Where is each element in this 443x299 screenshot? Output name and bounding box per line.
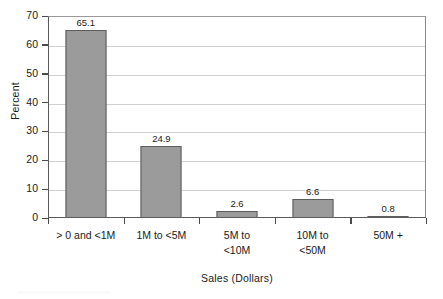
x-tick-mark bbox=[275, 218, 276, 224]
bar[interactable] bbox=[65, 30, 106, 218]
y-tick-label: 40 bbox=[0, 96, 38, 108]
y-tick-label: 0 bbox=[0, 211, 38, 223]
page-edge-artifact bbox=[18, 291, 110, 294]
x-category-label: > 0 and <1M bbox=[48, 228, 124, 243]
bar[interactable] bbox=[141, 146, 182, 218]
bar-chart: Percent 010203040506070 65.124.92.66.60.… bbox=[0, 0, 443, 299]
bar-series: 65.124.92.66.60.8 bbox=[48, 16, 426, 218]
bar-slot: 2.6 bbox=[199, 16, 275, 218]
bar-slot: 6.6 bbox=[275, 16, 351, 218]
bar[interactable] bbox=[216, 211, 257, 219]
x-category-label: 5M to <10M bbox=[199, 228, 275, 258]
x-category-label: 10M to <50M bbox=[275, 228, 351, 258]
x-tick-mark bbox=[199, 218, 200, 224]
bar-value-label: 2.6 bbox=[230, 198, 243, 209]
bar[interactable] bbox=[368, 216, 409, 218]
x-tick-mark bbox=[48, 218, 49, 224]
x-category-label: 50M + bbox=[350, 228, 426, 243]
bar-value-label: 24.9 bbox=[152, 133, 171, 144]
x-axis-title: Sales (Dollars) bbox=[48, 272, 426, 284]
bar[interactable] bbox=[292, 199, 333, 218]
bar-slot: 24.9 bbox=[124, 16, 200, 218]
x-tick-mark bbox=[426, 218, 427, 224]
y-tick-label: 10 bbox=[0, 182, 38, 194]
bar-value-label: 0.8 bbox=[382, 203, 395, 214]
y-tick-label: 30 bbox=[0, 124, 38, 136]
bar-slot: 65.1 bbox=[48, 16, 124, 218]
y-tick-label: 60 bbox=[0, 38, 38, 50]
bar-value-label: 6.6 bbox=[306, 186, 319, 197]
bar-value-label: 65.1 bbox=[77, 17, 96, 28]
y-tick-label: 50 bbox=[0, 67, 38, 79]
x-category-label: 1M to <5M bbox=[124, 228, 200, 243]
bar-slot: 0.8 bbox=[350, 16, 426, 218]
x-tick-mark bbox=[350, 218, 351, 224]
y-tick-label: 20 bbox=[0, 153, 38, 165]
x-axis-category-labels: > 0 and <1M1M to <5M5M to <10M10M to <50… bbox=[48, 228, 426, 272]
x-tick-mark bbox=[124, 218, 125, 224]
y-tick-label: 70 bbox=[0, 9, 38, 21]
